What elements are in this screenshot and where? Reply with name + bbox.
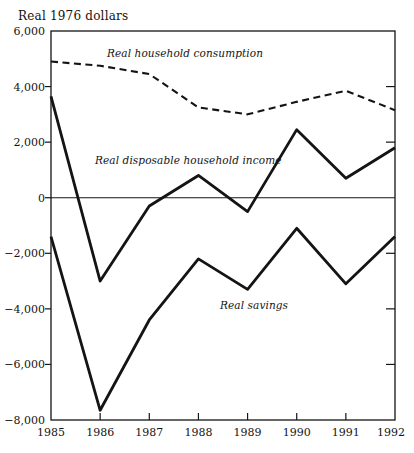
x-tick-label: 1988 (184, 426, 212, 439)
x-tick-label: 1989 (234, 426, 262, 439)
series-label: Real disposable household income (94, 154, 282, 166)
y-tick-label: 2,000 (14, 136, 46, 149)
chart-figure: Real 1976 dollars 6,0004,0002,0000−2,000… (0, 0, 414, 453)
y-tick-label: −2,000 (4, 247, 45, 260)
series-line-savings (51, 228, 395, 410)
chart-canvas: 6,0004,0002,0000−2,000−4,000−6,000−8,000… (0, 0, 414, 453)
series-label: Real savings (219, 299, 289, 311)
x-tick-label: 1990 (283, 426, 311, 439)
x-tick-label: 1985 (37, 426, 65, 439)
y-tick-label: 6,000 (14, 25, 46, 38)
y-tick-label: −6,000 (4, 358, 45, 371)
series-label: Real household consumption (106, 47, 263, 59)
series-line-income (51, 96, 395, 281)
x-tick-label: 1992 (377, 426, 405, 439)
series-line-consumption (51, 62, 395, 115)
plot-border (51, 31, 395, 420)
x-tick-label: 1991 (332, 426, 360, 439)
y-tick-label: 0 (38, 192, 45, 205)
x-tick-label: 1986 (86, 426, 114, 439)
y-tick-label: −4,000 (4, 303, 45, 316)
y-tick-label: 4,000 (14, 81, 46, 94)
x-tick-label: 1987 (135, 426, 163, 439)
